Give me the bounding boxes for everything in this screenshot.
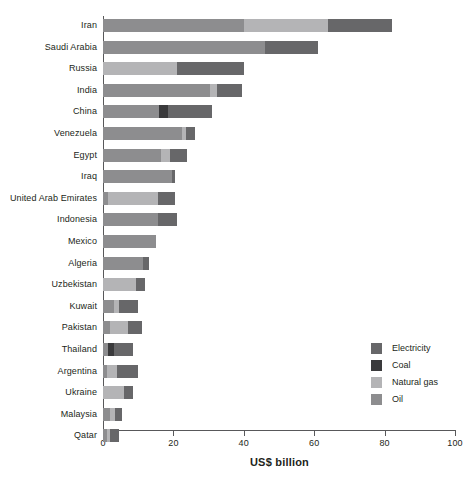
category-label-qatar: Qatar bbox=[74, 429, 97, 442]
legend-swatch-electricity bbox=[371, 343, 382, 354]
bar-row: United Arab Emirates bbox=[103, 192, 455, 205]
category-label-iraq: Iraq bbox=[81, 170, 97, 183]
category-label-algeria: Algeria bbox=[68, 257, 97, 270]
bar-segment-pakistan-oil bbox=[103, 321, 110, 334]
stacked-bar-chart: 020406080100 IranSaudi ArabiaRussiaIndia… bbox=[0, 0, 475, 488]
bar-row: Mexico bbox=[103, 235, 455, 248]
bar-segment-mexico-oil bbox=[103, 235, 156, 248]
bar-segment-india-oil bbox=[103, 84, 210, 97]
bar-row: Saudi Arabia bbox=[103, 41, 455, 54]
bar-segment-uzbekistan-natural-gas bbox=[103, 278, 136, 291]
bar-segment-iraq-electricity bbox=[172, 170, 176, 183]
bar-segment-russia-electricity bbox=[177, 62, 244, 75]
x-axis-title: US$ billion bbox=[103, 456, 456, 468]
category-label-russia: Russia bbox=[69, 62, 97, 75]
bar-segment-india-natural-gas bbox=[210, 84, 217, 97]
category-label-malaysia: Malaysia bbox=[61, 408, 97, 421]
bar-row: India bbox=[103, 84, 455, 97]
bar-segment-china-electricity bbox=[168, 105, 212, 118]
bar-segment-malaysia-electricity bbox=[115, 408, 122, 421]
bar-segment-indonesia-electricity bbox=[158, 213, 177, 226]
bar-row: Venezuela bbox=[103, 127, 455, 140]
bar-segment-iran-natural-gas bbox=[244, 19, 328, 32]
bar-row: Pakistan bbox=[103, 321, 455, 334]
bar-segment-saudi-arabia-electricity bbox=[265, 41, 318, 54]
bar-row: China bbox=[103, 105, 455, 118]
bar-segment-egypt-electricity bbox=[170, 149, 188, 162]
bar-segment-iran-oil bbox=[103, 19, 244, 32]
bar-segment-china-coal bbox=[159, 105, 168, 118]
bar-row: Algeria bbox=[103, 257, 455, 270]
bar-segment-egypt-natural-gas bbox=[161, 149, 170, 162]
category-label-kuwait: Kuwait bbox=[69, 300, 97, 313]
bar-row: Qatar bbox=[103, 429, 455, 442]
bar-segment-venezuela-electricity bbox=[186, 127, 195, 140]
bar-segment-kuwait-electricity bbox=[119, 300, 138, 313]
bar-row: Malaysia bbox=[103, 408, 455, 421]
bar-segment-venezuela-oil bbox=[103, 127, 182, 140]
bar-segment-ukraine-electricity bbox=[124, 386, 133, 399]
bar-row: Russia bbox=[103, 62, 455, 75]
bar-segment-indonesia-oil bbox=[103, 213, 158, 226]
bar-segment-russia-natural-gas bbox=[103, 62, 177, 75]
bar-segment-algeria-oil bbox=[103, 257, 143, 270]
bar-segment-kuwait-oil bbox=[103, 300, 114, 313]
bar-row: Indonesia bbox=[103, 213, 455, 226]
x-axis-tick bbox=[455, 431, 456, 436]
bar-segment-united-arab-emirates-electricity bbox=[158, 192, 176, 205]
category-label-mexico: Mexico bbox=[68, 235, 97, 248]
category-label-iran: Iran bbox=[81, 19, 97, 32]
bar-row: Iraq bbox=[103, 170, 455, 183]
bar-row: Egypt bbox=[103, 149, 455, 162]
legend-swatch-natural-gas bbox=[371, 377, 382, 388]
bar-segment-uzbekistan-electricity bbox=[136, 278, 145, 291]
bar-segment-qatar-electricity bbox=[110, 429, 119, 442]
bar-segment-saudi-arabia-oil bbox=[103, 41, 265, 54]
bar-segment-united-arab-emirates-natural-gas bbox=[108, 192, 157, 205]
bar-segment-malaysia-oil bbox=[103, 408, 110, 421]
bar-segment-argentina-electricity bbox=[117, 365, 138, 378]
legend-label-natural-gas: Natural gas bbox=[392, 375, 438, 390]
category-label-china: China bbox=[73, 105, 97, 118]
bar-segment-india-electricity bbox=[217, 84, 242, 97]
legend-label-coal: Coal bbox=[392, 358, 411, 373]
legend-swatch-coal bbox=[371, 360, 382, 371]
category-label-ukraine: Ukraine bbox=[65, 386, 97, 399]
bar-segment-pakistan-natural-gas bbox=[110, 321, 128, 334]
bar-segment-thailand-electricity bbox=[114, 343, 133, 356]
category-label-venezuela: Venezuela bbox=[54, 127, 97, 140]
legend-swatch-oil bbox=[371, 394, 382, 405]
bar-segment-iraq-oil bbox=[103, 170, 172, 183]
bar-segment-argentina-natural-gas bbox=[107, 365, 118, 378]
bar-segment-algeria-electricity bbox=[143, 257, 148, 270]
bar-row: Uzbekistan bbox=[103, 278, 455, 291]
category-label-india: India bbox=[77, 84, 97, 97]
category-label-pakistan: Pakistan bbox=[62, 321, 97, 334]
bar-segment-china-oil bbox=[103, 105, 159, 118]
bar-segment-egypt-oil bbox=[103, 149, 161, 162]
category-label-united-arab-emirates: United Arab Emirates bbox=[10, 192, 97, 205]
legend-label-oil: Oil bbox=[392, 392, 403, 407]
category-label-egypt: Egypt bbox=[73, 149, 97, 162]
category-label-thailand: Thailand bbox=[62, 343, 97, 356]
bar-segment-iran-electricity bbox=[328, 19, 391, 32]
category-label-uzbekistan: Uzbekistan bbox=[51, 278, 97, 291]
bar-row: Kuwait bbox=[103, 300, 455, 313]
bar-segment-ukraine-natural-gas bbox=[103, 386, 124, 399]
category-label-indonesia: Indonesia bbox=[57, 213, 97, 226]
legend-label-electricity: Electricity bbox=[392, 341, 431, 356]
bar-row: Iran bbox=[103, 19, 455, 32]
category-label-saudi-arabia: Saudi Arabia bbox=[45, 41, 97, 54]
category-label-argentina: Argentina bbox=[58, 365, 97, 378]
bar-segment-pakistan-electricity bbox=[128, 321, 142, 334]
